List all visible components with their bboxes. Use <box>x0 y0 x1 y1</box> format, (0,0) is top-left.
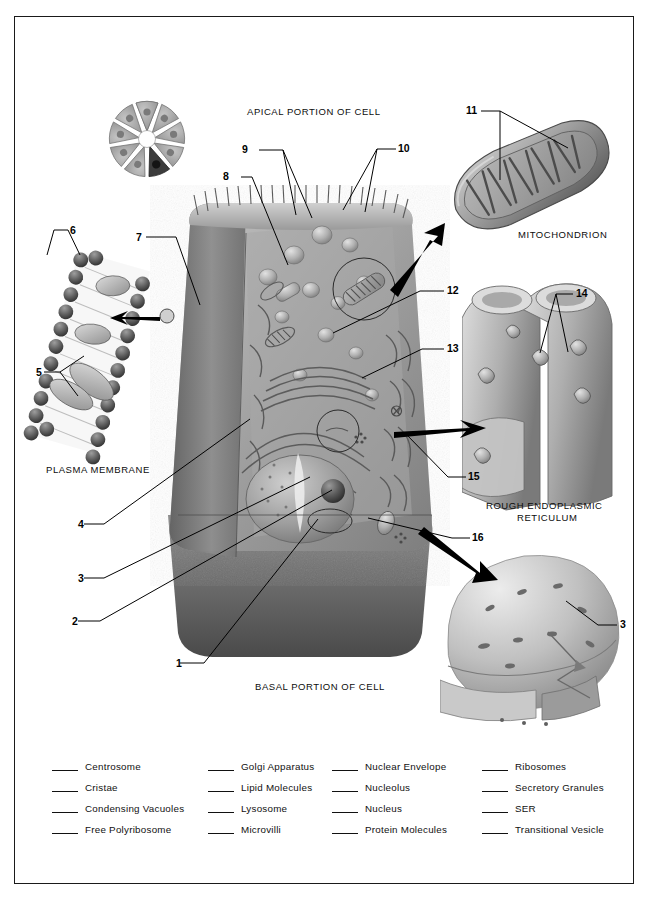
acinus-orientation-inset <box>104 96 190 182</box>
legend-label: Nucleus <box>365 803 402 814</box>
legend-label: Nuclear Envelope <box>365 761 446 772</box>
legend-column-1: Centrosome Cristae Condensing Vacuoles F… <box>52 756 184 840</box>
legend-item[interactable]: Condensing Vacuoles <box>52 798 184 819</box>
legend-item[interactable]: Golgi Apparatus <box>208 756 314 777</box>
callout-5: 5 <box>36 367 42 378</box>
legend-blank-line[interactable] <box>208 783 234 792</box>
legend-blank-line[interactable] <box>208 762 234 771</box>
legend-item[interactable]: Nuclear Envelope <box>332 756 447 777</box>
plasma-membrane-title: PLASMA MEMBRANE <box>46 464 150 476</box>
legend-blank-line[interactable] <box>482 825 508 834</box>
legend-item[interactable]: Ribosomes <box>482 756 604 777</box>
callout-1: 1 <box>176 658 182 669</box>
callout-14: 14 <box>576 288 588 299</box>
legend-label: Golgi Apparatus <box>241 761 314 772</box>
callout-16: 16 <box>472 532 484 543</box>
rough-er-title-line2: RETICULUM <box>517 512 577 524</box>
legend-blank-line[interactable] <box>482 762 508 771</box>
legend-label: Ribosomes <box>515 761 566 772</box>
legend-label: Lipid Molecules <box>241 782 312 793</box>
secretory-cell-body <box>150 185 450 665</box>
callout-8: 8 <box>223 171 229 182</box>
legend-blank-line[interactable] <box>332 762 358 771</box>
legend-item[interactable]: Nucleus <box>332 798 447 819</box>
legend-label: Free Polyribosome <box>85 824 171 835</box>
callout-12: 12 <box>447 285 459 296</box>
legend-column-4: Ribosomes Secretory Granules SER Transit… <box>482 756 604 840</box>
callout-13: 13 <box>447 343 459 354</box>
legend-label: Centrosome <box>85 761 141 772</box>
callout-3-nuclear-envelope: 3 <box>620 619 626 630</box>
legend-blank-line[interactable] <box>52 762 78 771</box>
legend-blank-line[interactable] <box>208 804 234 813</box>
legend-blank-line[interactable] <box>52 783 78 792</box>
callout-6: 6 <box>70 225 76 236</box>
legend-item[interactable]: Microvilli <box>208 819 314 840</box>
legend-label: Nucleolus <box>365 782 410 793</box>
rough-er-title-line1: ROUGH ENDOPLASMIC <box>486 500 603 512</box>
legend-item[interactable]: Free Polyribosome <box>52 819 184 840</box>
legend-item[interactable]: Protein Molecules <box>332 819 447 840</box>
legend-item[interactable]: Lysosome <box>208 798 314 819</box>
legend-item[interactable]: Centrosome <box>52 756 184 777</box>
legend-item[interactable]: Nucleolus <box>332 777 447 798</box>
legend-item[interactable]: Lipid Molecules <box>208 777 314 798</box>
legend-column-2: Golgi Apparatus Lipid Molecules Lysosome… <box>208 756 314 840</box>
legend-label: SER <box>515 803 536 814</box>
legend-label: Transitional Vesicle <box>515 824 604 835</box>
basal-portion-label: BASAL PORTION OF CELL <box>255 681 385 693</box>
callout-4: 4 <box>78 519 84 530</box>
legend-blank-line[interactable] <box>482 783 508 792</box>
legend-item[interactable]: Transitional Vesicle <box>482 819 604 840</box>
legend-blank-line[interactable] <box>52 825 78 834</box>
callout-3: 3 <box>78 573 84 584</box>
mitochondrion-inset <box>432 118 632 240</box>
callout-10: 10 <box>398 143 410 154</box>
legend-label: Condensing Vacuoles <box>85 803 184 814</box>
legend-blank-line[interactable] <box>482 804 508 813</box>
apical-portion-label: APICAL PORTION OF CELL <box>247 106 381 118</box>
legend-label: Secretory Granules <box>515 782 604 793</box>
legend-item[interactable]: Cristae <box>52 777 184 798</box>
legend-blank-line[interactable] <box>332 783 358 792</box>
mitochondrion-title: MITOCHONDRION <box>518 229 607 241</box>
legend-column-3: Nuclear Envelope Nucleolus Nucleus Prote… <box>332 756 447 840</box>
legend: Centrosome Cristae Condensing Vacuoles F… <box>0 756 650 846</box>
nuclear-envelope-inset <box>440 548 635 728</box>
legend-blank-line[interactable] <box>52 804 78 813</box>
legend-blank-line[interactable] <box>332 804 358 813</box>
legend-blank-line[interactable] <box>208 825 234 834</box>
nucleolus <box>321 479 345 503</box>
legend-label: Protein Molecules <box>365 824 447 835</box>
callout-7: 7 <box>136 232 142 243</box>
legend-item[interactable]: SER <box>482 798 604 819</box>
legend-blank-line[interactable] <box>332 825 358 834</box>
legend-item[interactable]: Secretory Granules <box>482 777 604 798</box>
callout-11: 11 <box>466 105 477 116</box>
plasma-membrane-inset <box>22 232 172 472</box>
legend-label: Cristae <box>85 782 118 793</box>
callout-2: 2 <box>72 616 78 627</box>
callout-15: 15 <box>468 471 480 482</box>
figure-page: APICAL PORTION OF CELL BASAL PORTION OF … <box>0 0 650 909</box>
legend-label: Lysosome <box>241 803 287 814</box>
legend-label: Microvilli <box>241 824 281 835</box>
rough-er-inset <box>462 282 627 512</box>
callout-9: 9 <box>242 144 248 155</box>
